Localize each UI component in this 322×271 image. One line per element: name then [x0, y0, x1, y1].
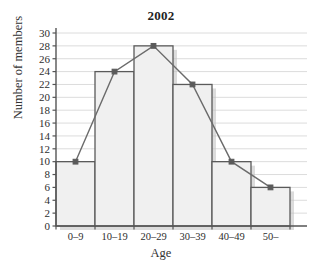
y-tick-label: 0	[45, 220, 51, 232]
y-tick-label: 10	[39, 155, 51, 167]
y-tick-label: 8	[45, 168, 51, 180]
x-tick-label: 40–49	[218, 231, 244, 242]
y-tick-label: 2	[45, 207, 51, 219]
bar	[134, 46, 173, 226]
y-tick-label: 16	[39, 117, 51, 129]
chart-container: 2002 Number of members Age 0246810121416…	[0, 0, 322, 271]
y-tick-label: 4	[45, 194, 51, 206]
chart-plot-area: 0246810121416182022242628300–910–1920–29…	[0, 0, 322, 271]
x-tick-label: 20–29	[140, 231, 166, 242]
y-tick-label: 20	[39, 91, 51, 103]
y-tick-label: 6	[45, 181, 51, 193]
data-point-marker	[190, 82, 195, 87]
y-tick-label: 14	[39, 130, 51, 142]
data-point-marker	[73, 159, 78, 164]
bar	[56, 162, 95, 226]
y-tick-label: 26	[39, 53, 51, 65]
bar	[251, 187, 290, 226]
y-tick-label: 24	[39, 65, 51, 77]
y-tick-label: 22	[39, 78, 50, 90]
y-tick-label: 28	[39, 40, 51, 52]
bar	[173, 84, 212, 226]
x-tick-label: 10–19	[101, 231, 127, 242]
data-point-marker	[151, 43, 156, 48]
x-tick-label: 0–9	[68, 231, 84, 242]
x-tick-label: 30–39	[179, 231, 205, 242]
data-point-marker	[229, 159, 234, 164]
data-point-marker	[112, 69, 117, 74]
data-point-marker	[268, 185, 273, 190]
x-tick-label: 50–	[263, 231, 280, 242]
bar	[95, 72, 134, 226]
y-tick-label: 18	[39, 104, 51, 116]
y-tick-label: 30	[39, 27, 51, 39]
y-tick-label: 12	[39, 143, 50, 155]
